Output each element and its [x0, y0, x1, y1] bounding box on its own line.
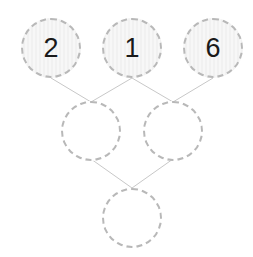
edge-top-mid-to-mid-right: [132, 78, 173, 102]
node-top-left: 2: [21, 18, 81, 78]
node-value: 2: [43, 35, 58, 62]
edge-mid-right-to-bottom: [132, 159, 173, 188]
node-value: 1: [124, 35, 139, 62]
edge-top-left-to-mid-left: [51, 78, 91, 102]
edge-mid-left-to-bottom: [91, 159, 132, 188]
node-value: 6: [205, 35, 220, 62]
edge-top-mid-to-mid-left: [91, 78, 132, 102]
node-top-middle: 1: [102, 18, 162, 78]
node-bottom[interactable]: [102, 188, 162, 248]
node-middle-left[interactable]: [61, 101, 121, 161]
node-middle-right[interactable]: [143, 101, 203, 161]
node-top-right: 6: [183, 18, 243, 78]
edge-top-right-to-mid-right: [173, 78, 213, 102]
